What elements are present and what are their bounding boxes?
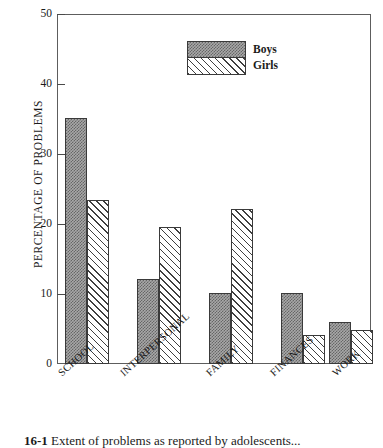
legend-labels: Boys Girls: [253, 41, 278, 73]
y-tick-label-30: 30: [12, 148, 52, 160]
figure-caption-text: Extent of problems as reported by adoles…: [51, 433, 300, 448]
legend-label-girls: Girls: [253, 57, 278, 73]
bar-school-boys: [65, 118, 87, 364]
y-tick-label-20: 20: [12, 218, 52, 230]
figure-caption: 16-1 Extent of problems as reported by a…: [24, 433, 383, 448]
y-tick-label-50: 50: [12, 8, 52, 20]
legend-swatch-girls-icon: [188, 58, 245, 74]
legend-label-boys: Boys: [253, 41, 278, 57]
figure-caption-number: 16-1: [24, 433, 48, 448]
y-axis-title: PERCENTAGE OF PROBLEMS: [32, 54, 44, 314]
legend-swatch-boys-icon: [188, 42, 245, 58]
legend-swatch-group: [187, 41, 246, 75]
figure-grouped-bar-chart: PERCENTAGE OF PROBLEMS 50 40 30 20 10 0: [0, 0, 383, 448]
y-tick-label-0: 0: [12, 358, 52, 370]
y-tick-label-10: 10: [12, 288, 52, 300]
chart-legend: Boys Girls: [187, 41, 278, 75]
bar-school-girls: [87, 200, 109, 364]
bar-family-girls: [231, 209, 253, 364]
y-tick-label-40: 40: [12, 78, 52, 90]
